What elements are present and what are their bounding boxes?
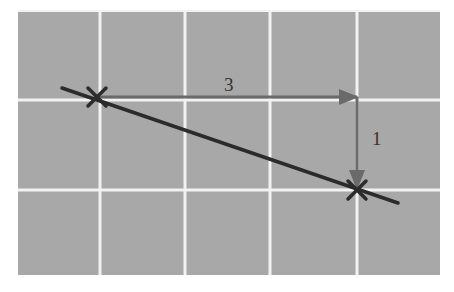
run-label: 3: [224, 74, 234, 95]
slope-diagram: 3 1: [0, 0, 454, 292]
rise-label: 1: [372, 128, 382, 149]
